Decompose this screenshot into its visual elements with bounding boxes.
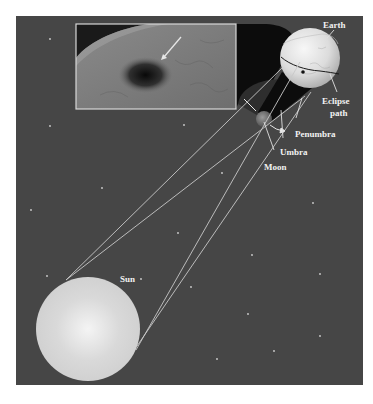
label-moon: Moon bbox=[264, 162, 287, 172]
star bbox=[319, 335, 321, 337]
star bbox=[49, 125, 51, 127]
label-sun: Sun bbox=[120, 274, 135, 284]
solar-eclipse-diagram: Earth Eclipse path Penumbra Umbra Moon S… bbox=[0, 0, 373, 404]
earth bbox=[280, 28, 340, 88]
star bbox=[216, 358, 218, 360]
label-earth: Earth bbox=[323, 20, 346, 30]
star bbox=[247, 313, 249, 315]
star bbox=[183, 124, 185, 126]
star bbox=[312, 202, 314, 204]
star bbox=[251, 254, 253, 256]
star bbox=[49, 38, 51, 40]
label-umbra: Umbra bbox=[280, 147, 308, 157]
star bbox=[190, 286, 192, 288]
sun bbox=[36, 277, 140, 381]
star bbox=[30, 209, 32, 211]
label-eclipse-path-line1: Eclipse bbox=[322, 96, 350, 106]
star bbox=[319, 273, 321, 275]
star bbox=[101, 187, 103, 189]
eclipse-point bbox=[301, 70, 305, 74]
label-eclipse-path-line2: path bbox=[330, 108, 348, 118]
star bbox=[221, 172, 223, 174]
star bbox=[273, 350, 275, 352]
inset-photo bbox=[76, 24, 236, 109]
star bbox=[177, 232, 179, 234]
star bbox=[46, 275, 48, 277]
star bbox=[140, 278, 142, 280]
label-penumbra: Penumbra bbox=[295, 129, 336, 139]
